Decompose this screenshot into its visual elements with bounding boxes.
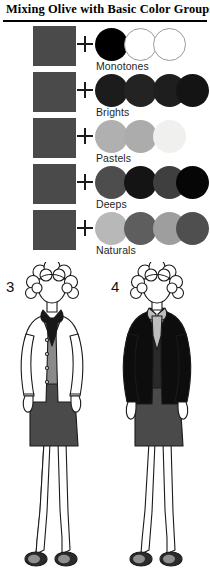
color-row-monotones: Monotones: [0, 24, 210, 68]
color-row-pastels: Pastels: [0, 116, 210, 160]
color-row-naturals: Naturals: [0, 208, 210, 252]
olive-swatch: [33, 118, 76, 158]
color-dot: [176, 74, 209, 107]
plus-icon: [77, 82, 93, 98]
figure-3: 3: [0, 262, 105, 578]
plus-icon: [77, 220, 93, 236]
olive-swatch: [33, 72, 76, 112]
figure-illustrations: 3: [0, 262, 210, 578]
color-row-label: Naturals: [96, 244, 136, 256]
color-mixing-chart: Monotones Brights Pastels Deeps: [0, 24, 210, 258]
page-title: Mixing Olive with Basic Color Groups: [6, 2, 206, 17]
plus-icon: [77, 36, 93, 52]
color-dot: [176, 166, 209, 199]
color-row-brights: Brights: [0, 70, 210, 114]
plus-icon: [77, 174, 93, 190]
page-header: Mixing Olive with Basic Color Groups: [0, 0, 210, 24]
color-dot: [153, 120, 186, 153]
olive-swatch: [33, 164, 76, 204]
figure-4-illustration: [105, 262, 210, 578]
title-divider: [3, 20, 207, 22]
color-row-deeps: Deeps: [0, 162, 210, 206]
color-dot: [176, 212, 209, 245]
olive-swatch: [33, 210, 76, 250]
figure-4: 4: [105, 262, 210, 578]
plus-icon: [77, 128, 93, 144]
color-dot: [153, 28, 186, 61]
olive-swatch: [33, 26, 76, 66]
figure-3-illustration: [0, 262, 105, 578]
